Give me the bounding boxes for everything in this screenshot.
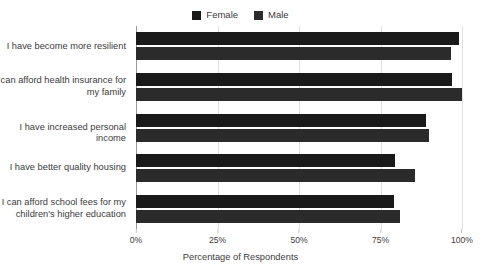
bar-male[interactable] — [136, 169, 415, 182]
x-tick-label: 25% — [209, 236, 226, 245]
x-tick-mark — [135, 229, 136, 233]
bar-chart: Female Male I have become more resilient… — [0, 0, 481, 271]
bar-group — [136, 114, 462, 142]
bars-layer — [136, 26, 462, 229]
bar-female[interactable] — [136, 73, 452, 86]
bar-male[interactable] — [136, 47, 451, 60]
y-axis-label: I can afford school fees for my children… — [0, 197, 131, 220]
bar-male[interactable] — [136, 210, 400, 223]
x-axis-ticks: 0%25%50%75%100% — [136, 229, 462, 247]
x-axis-tick: 100% — [451, 229, 473, 245]
gridline — [462, 26, 463, 229]
x-tick-mark — [298, 229, 299, 233]
bar-group — [136, 195, 462, 223]
y-axis-labels: I have become more resilientI can afford… — [0, 26, 131, 229]
x-tick-mark — [380, 229, 381, 233]
legend-item-male[interactable]: Male — [254, 10, 289, 20]
bar-male[interactable] — [136, 129, 429, 142]
x-axis-tick: 25% — [209, 229, 226, 245]
legend-swatch-male — [254, 11, 263, 20]
x-tick-label: 75% — [372, 236, 389, 245]
bar-female[interactable] — [136, 114, 426, 127]
plot-area — [136, 26, 462, 229]
legend-label-male: Male — [268, 10, 289, 20]
bar-group — [136, 73, 462, 101]
y-axis-label: I have become more resilient — [0, 41, 131, 53]
legend-item-female[interactable]: Female — [192, 10, 238, 20]
y-axis-label: I can afford health insurance for my fam… — [0, 75, 131, 98]
x-tick-label: 100% — [451, 236, 473, 245]
bar-female[interactable] — [136, 195, 394, 208]
x-axis-title: Percentage of Respondents — [0, 252, 481, 262]
bar-group — [136, 154, 462, 182]
x-tick-label: 50% — [290, 236, 307, 245]
x-tick-mark — [461, 229, 462, 233]
x-axis-tick: 50% — [290, 229, 307, 245]
bar-female[interactable] — [136, 32, 459, 45]
bar-group — [136, 32, 462, 60]
bar-female[interactable] — [136, 154, 395, 167]
x-axis-tick: 75% — [372, 229, 389, 245]
legend-swatch-female — [192, 11, 201, 20]
bar-male[interactable] — [136, 88, 462, 101]
x-tick-label: 0% — [130, 236, 142, 245]
legend-label-female: Female — [206, 10, 238, 20]
y-axis-label: I have better quality housing — [0, 162, 131, 174]
chart-legend: Female Male — [0, 8, 481, 22]
y-axis-label: I have increased personal income — [0, 122, 131, 145]
x-tick-mark — [217, 229, 218, 233]
x-axis-tick: 0% — [130, 229, 142, 245]
